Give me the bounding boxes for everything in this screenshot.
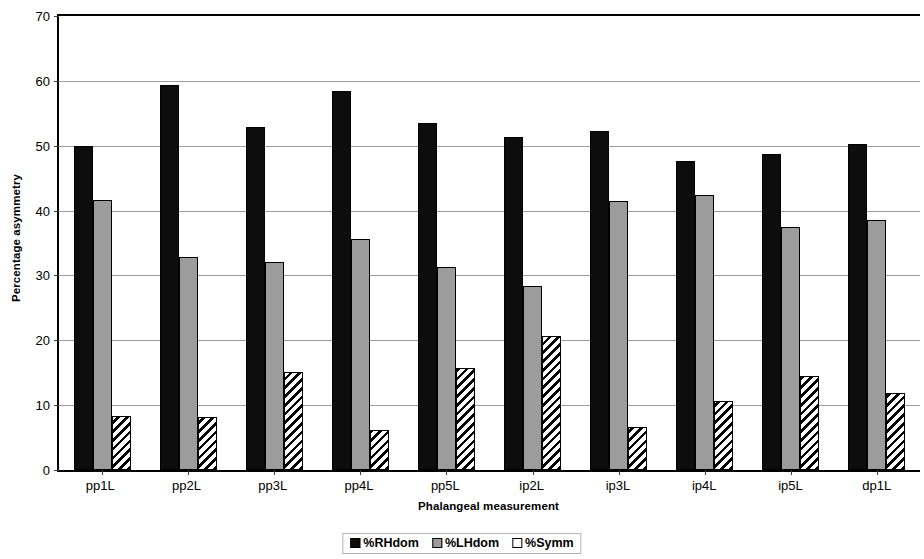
bar-lhdom — [437, 267, 456, 470]
y-axis-tick-label: 60 — [36, 73, 50, 88]
bar-symm — [456, 368, 475, 470]
bar-rhdom — [762, 154, 781, 471]
y-axis-tick-label: 40 — [36, 203, 50, 218]
x-axis-tick-label: pp2L — [143, 478, 229, 493]
x-axis-tick-mark — [274, 470, 275, 475]
bar-rhdom — [246, 127, 265, 470]
bar-group — [403, 16, 489, 470]
bar-group — [834, 16, 920, 470]
x-axis-tick-label: pp3L — [230, 478, 316, 493]
legend-item[interactable]: %LHdom — [432, 536, 499, 550]
bar-group — [662, 16, 748, 470]
bar-symm — [714, 401, 733, 470]
x-axis-tick-mark — [188, 470, 189, 475]
bar-group-bars — [59, 16, 145, 470]
x-axis-tick-label: pp1L — [57, 478, 143, 493]
bar-group-bars — [576, 16, 662, 470]
y-axis-tick-label: 70 — [36, 9, 50, 24]
bar-lhdom — [523, 286, 542, 470]
x-axis-title: Phalangeal measurement — [57, 500, 920, 512]
bar-lhdom — [351, 239, 370, 470]
x-axis-tick-label: dp1L — [834, 478, 920, 493]
bar-symm — [886, 393, 905, 470]
bar-rhdom — [160, 85, 179, 470]
bar-lhdom — [93, 200, 112, 470]
bar-symm — [370, 430, 389, 470]
chart-legend: %RHdom%LHdom%Symm — [342, 533, 581, 554]
bar-group — [576, 16, 662, 470]
legend-item[interactable]: %Symm — [512, 536, 574, 550]
bar-group — [317, 16, 403, 470]
bar-lhdom — [609, 201, 628, 470]
legend-swatch-rhdom — [350, 538, 360, 548]
y-axis-tick-label: 30 — [36, 268, 50, 283]
bar-group — [59, 16, 145, 470]
x-axis-tick-mark — [619, 470, 620, 475]
x-axis-tick-label: pp4L — [316, 478, 402, 493]
bar-symm — [800, 376, 819, 470]
y-axis-title: Percentage asymmetry — [10, 138, 22, 338]
x-axis-tick-label: ip3L — [575, 478, 661, 493]
x-axis-tick-mark — [360, 470, 361, 475]
x-axis-tick-label: ip5L — [747, 478, 833, 493]
bar-group-bars — [489, 16, 575, 470]
bar-symm — [628, 427, 647, 470]
bar-group-bars — [748, 16, 834, 470]
bar-group-bars — [662, 16, 748, 470]
bar-rhdom — [74, 146, 93, 470]
y-axis-tick-label: 0 — [43, 463, 50, 478]
bar-rhdom — [332, 91, 351, 470]
y-axis-tick-mark — [54, 470, 59, 471]
x-axis-tick-mark — [446, 470, 447, 475]
bar-group-bars — [834, 16, 920, 470]
bar-rhdom — [848, 144, 867, 470]
x-axis-tick-mark — [705, 470, 706, 475]
plot-area: 010203040506070 — [57, 14, 920, 472]
bar-group-bars — [403, 16, 489, 470]
bar-group-bars — [231, 16, 317, 470]
bar-group-bars — [317, 16, 403, 470]
bar-rhdom — [504, 137, 523, 470]
legend-label: %RHdom — [363, 536, 419, 550]
legend-swatch-lhdom — [432, 538, 442, 548]
legend-label: %LHdom — [445, 536, 499, 550]
bar-chart: Percentage asymmetry 010203040506070 pp1… — [0, 0, 924, 559]
bar-rhdom — [676, 161, 695, 470]
y-axis-tick-label: 50 — [36, 138, 50, 153]
y-axis-tick-label: 10 — [36, 398, 50, 413]
x-axis-tick-mark — [102, 470, 103, 475]
bar-symm — [542, 336, 561, 470]
bar-lhdom — [781, 227, 800, 470]
x-axis-tick-mark — [791, 470, 792, 475]
x-axis-tick-labels: pp1Lpp2Lpp3Lpp4Lpp5Lip2Lip3Lip4Lip5Ldp1L — [57, 478, 920, 493]
bar-group-bars — [145, 16, 231, 470]
bar-lhdom — [179, 257, 198, 470]
bar-groups — [59, 16, 920, 470]
x-axis-tick-label: ip2L — [488, 478, 574, 493]
bar-lhdom — [867, 220, 886, 470]
x-axis-tick-label: ip4L — [661, 478, 747, 493]
bar-group — [489, 16, 575, 470]
bar-lhdom — [265, 262, 284, 470]
legend-swatch-symm — [512, 538, 522, 548]
legend-item[interactable]: %RHdom — [350, 536, 419, 550]
x-axis-tick-mark — [533, 470, 534, 475]
x-axis-tick-label: pp5L — [402, 478, 488, 493]
bar-lhdom — [695, 195, 714, 470]
bar-symm — [284, 372, 303, 470]
bar-group — [145, 16, 231, 470]
legend-label: %Symm — [525, 536, 574, 550]
bar-rhdom — [418, 123, 437, 470]
bar-group — [231, 16, 317, 470]
x-axis-tick-mark — [877, 470, 878, 475]
bar-symm — [198, 417, 217, 470]
bar-group — [748, 16, 834, 470]
bar-symm — [112, 416, 131, 470]
bar-rhdom — [590, 131, 609, 470]
y-axis-tick-label: 20 — [36, 333, 50, 348]
